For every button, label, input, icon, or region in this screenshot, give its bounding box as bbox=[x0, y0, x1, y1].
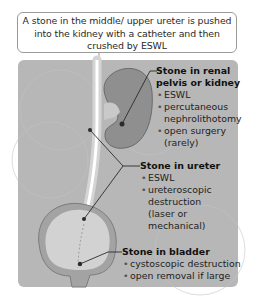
ureter-item: ESWL bbox=[140, 172, 220, 184]
ureter-heading: Stone in ureter bbox=[140, 160, 220, 172]
kidney-item: percutaneous nephrolithotomy bbox=[156, 101, 240, 125]
ureter-label: Stone in ureter ESWL ureteroscopic destr… bbox=[140, 160, 220, 232]
kidney-label: Stone in renal pelvis or kidney ESWL per… bbox=[156, 65, 240, 149]
kidney-heading-2: pelvis or kidney bbox=[156, 77, 240, 89]
kidney-item: ESWL bbox=[156, 89, 240, 101]
bladder-icon bbox=[39, 203, 117, 287]
kidney-item: open surgery (rarely) bbox=[156, 125, 234, 149]
bladder-label: Stone in bladder cystoscopic destruction… bbox=[122, 246, 241, 282]
kidney-heading-1: Stone in renal bbox=[156, 65, 240, 77]
bladder-heading: Stone in bladder bbox=[122, 246, 241, 258]
ureter-item: ureteroscopic destruction (laser or mech… bbox=[140, 184, 216, 232]
bladder-item: cystoscopic destruction bbox=[122, 258, 241, 270]
bladder-item: open removal if large bbox=[122, 270, 241, 282]
